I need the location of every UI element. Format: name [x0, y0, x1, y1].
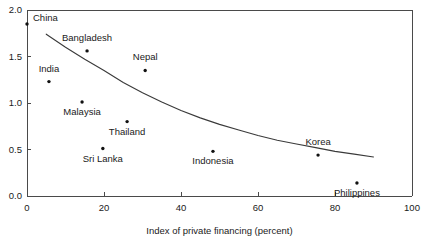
data-points-group: ChinaBangladeshNepalIndiaMalaysiaThailan…	[25, 12, 380, 198]
x-tick-label: 80	[330, 202, 341, 213]
x-tick-label: 40	[176, 202, 187, 213]
data-point-label: Indonesia	[192, 155, 234, 166]
data-point-marker[interactable]	[211, 150, 214, 153]
y-tick-label: 1.5	[9, 51, 22, 62]
data-point-label: China	[33, 12, 59, 23]
data-point-marker[interactable]	[25, 22, 28, 25]
data-point-marker[interactable]	[316, 153, 319, 156]
data-point-label: Philippines	[334, 187, 380, 198]
x-tick-label: 100	[404, 202, 420, 213]
data-point-marker[interactable]	[47, 80, 50, 83]
y-tick-label: 0.5	[9, 144, 22, 155]
data-point-marker[interactable]	[80, 100, 83, 103]
data-point-marker[interactable]	[125, 120, 128, 123]
data-point-label: Thailand	[109, 126, 145, 137]
data-point-marker[interactable]	[85, 49, 88, 52]
data-point-label: Korea	[305, 136, 331, 147]
chart-container: 0.00.51.01.52.0020406080100 ChinaBanglad…	[0, 0, 422, 248]
data-point-marker[interactable]	[101, 147, 104, 150]
x-tick-label: 0	[24, 202, 29, 213]
y-tick-label: 2.0	[9, 4, 22, 15]
axis-labels-group: Index of private financing (percent)	[146, 225, 292, 236]
data-point-label: Nepal	[133, 51, 158, 62]
data-point-label: Bangladesh	[62, 32, 112, 43]
x-axis-title: Index of private financing (percent)	[146, 225, 292, 236]
data-point-marker[interactable]	[143, 69, 146, 72]
data-point-label: Sri Lanka	[83, 153, 124, 164]
data-point-marker[interactable]	[355, 181, 358, 184]
x-tick-label: 20	[99, 202, 110, 213]
x-tick-label: 60	[253, 202, 264, 213]
scatter-plot: 0.00.51.01.52.0020406080100 ChinaBanglad…	[0, 0, 422, 248]
y-tick-label: 1.0	[9, 97, 22, 108]
data-point-label: India	[39, 63, 60, 74]
data-point-label: Malaysia	[63, 106, 101, 117]
y-tick-label: 0.0	[9, 190, 22, 201]
